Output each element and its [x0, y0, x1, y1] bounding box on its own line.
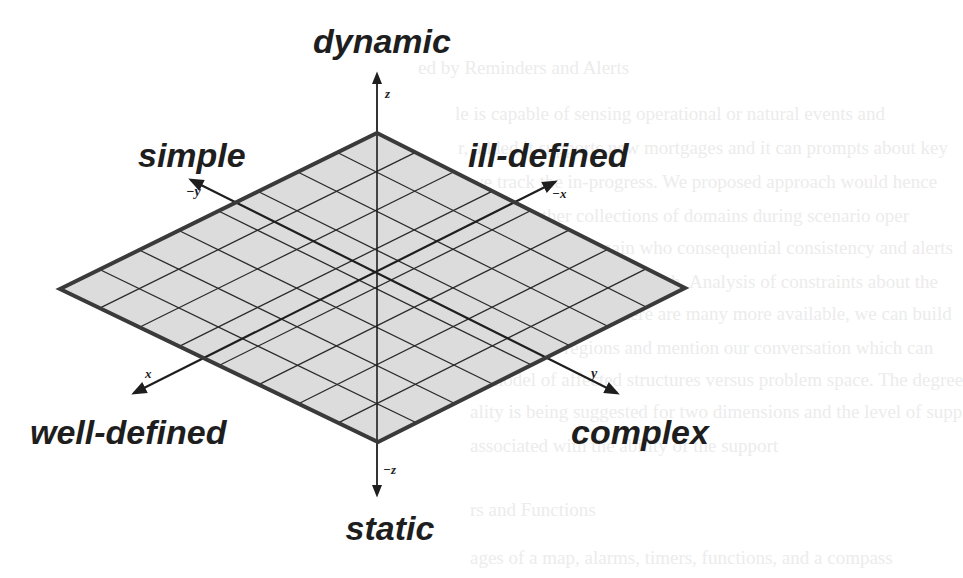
label-complex: complex [571, 413, 711, 451]
label-simple: simple [138, 136, 246, 174]
label-well-defined: well-defined [30, 413, 228, 451]
axis-label-y: y [589, 366, 598, 381]
label-dynamic: dynamic [313, 22, 451, 60]
problem-plane [60, 133, 685, 442]
axis-label-x: x [144, 366, 152, 381]
label-static: static [346, 509, 435, 547]
axis-label-neg-y: −y [186, 184, 201, 199]
axis-label-neg-z: −z [383, 462, 397, 477]
label-ill-defined: ill-defined [468, 136, 630, 174]
axis-label-z: z [384, 86, 391, 101]
axis-label-neg-x: −x [552, 186, 567, 201]
